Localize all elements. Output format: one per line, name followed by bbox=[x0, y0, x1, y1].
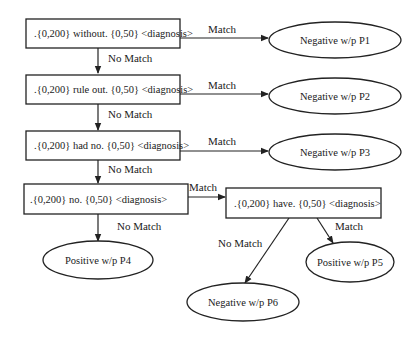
edge-label-no-match: No Match bbox=[108, 108, 153, 120]
rule-label: .{0,200} rule out. {0,50} <diagnosis> bbox=[34, 84, 193, 95]
outcome-node-p1: Negative w/p P1 bbox=[269, 22, 401, 58]
rule-label: .{0,200} without. {0,50} <diagnosis> bbox=[34, 28, 193, 39]
edge-label-no-match: No Match bbox=[218, 237, 263, 249]
outcome-label: Negative w/p P1 bbox=[300, 35, 370, 46]
outcome-node-p5: Positive w/p P5 bbox=[306, 242, 394, 282]
edge-label-match: Match bbox=[189, 181, 218, 193]
outcome-node-p3: Negative w/p P3 bbox=[269, 134, 401, 170]
rule-node-4: .{0,200} no. {0,50} <diagnosis> bbox=[24, 184, 188, 214]
rule-node-5: .{0,200} have. {0,50} <diagnosis> bbox=[226, 188, 381, 218]
outcome-label: Negative w/p P3 bbox=[300, 147, 370, 158]
outcome-node-p6: Negative w/p P6 bbox=[187, 283, 299, 321]
outcome-node-p2: Negative w/p P2 bbox=[269, 78, 401, 114]
flowchart: Match No Match Match No Match Match No M… bbox=[0, 0, 402, 340]
rule-label: .{0,200} no. {0,50} <diagnosis> bbox=[30, 194, 167, 205]
outcome-label: Positive w/p P5 bbox=[317, 257, 383, 268]
edge-label-no-match: No Match bbox=[108, 163, 153, 175]
outcome-label: Negative w/p P2 bbox=[300, 91, 370, 102]
rule-label: .{0,200} have. {0,50} <diagnosis> bbox=[234, 198, 381, 209]
rule-node-2: .{0,200} rule out. {0,50} <diagnosis> bbox=[26, 75, 193, 104]
rule-label: .{0,200} had no. {0,50} <diagnosis> bbox=[34, 140, 189, 151]
rule-node-3: .{0,200} had no. {0,50} <diagnosis> bbox=[26, 131, 189, 160]
rule-node-1: .{0,200} without. {0,50} <diagnosis> bbox=[26, 19, 193, 48]
edge-label-match: Match bbox=[208, 135, 237, 147]
edge-label-match: Match bbox=[208, 79, 237, 91]
outcome-label: Positive w/p P4 bbox=[65, 255, 132, 266]
edge-r5-p6 bbox=[245, 218, 289, 283]
edge-label-match: Match bbox=[208, 23, 237, 35]
edge-label-no-match: No Match bbox=[108, 52, 153, 64]
outcome-node-p4: Positive w/p P4 bbox=[43, 241, 153, 279]
edge-r5-p5 bbox=[317, 218, 333, 243]
edge-label-match: Match bbox=[335, 220, 364, 232]
outcome-label: Negative w/p P6 bbox=[208, 297, 278, 308]
edge-label-no-match: No Match bbox=[117, 220, 162, 232]
